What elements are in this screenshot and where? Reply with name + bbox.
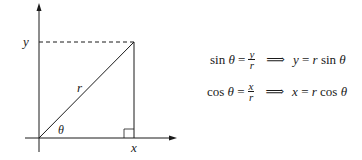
rhs-fn: sin bbox=[321, 52, 336, 68]
theta: θ bbox=[228, 52, 234, 68]
sine-equation: sin θ = yr ⟹ y = r sin θ bbox=[210, 49, 346, 70]
rhs-target: y bbox=[293, 52, 299, 68]
rhs-r: r bbox=[313, 52, 318, 68]
r-label: r bbox=[77, 80, 83, 95]
right-triangle-diagram: y x r θ bbox=[0, 0, 190, 160]
fraction-y-over-r: yr bbox=[248, 49, 255, 70]
rhs-r: r bbox=[312, 84, 317, 100]
implies-arrow-icon: ⟹ bbox=[266, 52, 285, 68]
y-axis-arrow-icon bbox=[37, 3, 42, 11]
equals: = bbox=[238, 52, 245, 68]
cosine-equation: cos θ = xr ⟹ x = r cos θ bbox=[207, 81, 347, 102]
rhs-target: x bbox=[292, 84, 298, 100]
rhs-fn: cos bbox=[320, 84, 337, 100]
x-axis-arrow-icon bbox=[169, 136, 177, 141]
theta: θ bbox=[228, 84, 234, 100]
x-label: x bbox=[130, 140, 137, 155]
theta-label: θ bbox=[58, 123, 64, 137]
rhs-theta: θ bbox=[341, 84, 347, 100]
denominator: r bbox=[250, 60, 254, 70]
sin-fn: sin bbox=[210, 52, 225, 68]
implies-arrow-icon: ⟹ bbox=[265, 84, 284, 100]
cos-fn: cos bbox=[207, 84, 224, 100]
right-angle-marker bbox=[124, 129, 134, 138]
rhs-equals: = bbox=[301, 84, 308, 100]
fraction-x-over-r: xr bbox=[248, 81, 255, 102]
y-label: y bbox=[21, 34, 29, 49]
rhs-equals: = bbox=[302, 52, 309, 68]
rhs-theta: θ bbox=[339, 52, 345, 68]
equals: = bbox=[237, 84, 244, 100]
denominator: r bbox=[249, 92, 253, 102]
hypotenuse-r bbox=[39, 42, 134, 138]
